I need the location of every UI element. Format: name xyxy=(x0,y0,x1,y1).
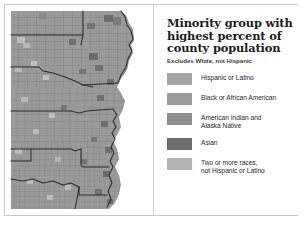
map-figure: Minority group with highest percent of c… xyxy=(4,4,298,216)
legend-list: Hispanic or Latino Black or African Amer… xyxy=(167,73,293,176)
legend-swatch-asian xyxy=(167,138,192,150)
legend-label-black-or-african-american: Black or African American xyxy=(201,93,276,102)
legend-subtitle: Excludes White, not Hispanic xyxy=(167,57,293,65)
legend-title-line-1: Minority group with xyxy=(167,17,293,30)
map-pane xyxy=(5,5,153,215)
region-kansas-missouri xyxy=(11,141,119,167)
legend-label-two-or-more-races: Two or more races, not Hispanic or Latin… xyxy=(201,158,265,176)
legend-item-hispanic-or-latino[interactable]: Hispanic or Latino xyxy=(167,73,293,86)
legend-swatch-two-or-more-races xyxy=(167,158,192,170)
map-region-lower-central xyxy=(11,141,119,167)
legend-item-black-or-african-american[interactable]: Black or African American xyxy=(167,93,293,106)
legend-label-hispanic-or-latino: Hispanic or Latino xyxy=(201,73,254,82)
legend-swatch-hispanic-or-latino xyxy=(167,73,192,85)
legend-label-asian: Asian xyxy=(201,138,218,147)
map-region-central xyxy=(11,87,125,141)
legend-item-american-indian-and-alaska-native[interactable]: American Indian and Alaska Native xyxy=(167,113,293,131)
legend-title: Minority group with highest percent of c… xyxy=(167,17,293,55)
legend-item-two-or-more-races[interactable]: Two or more races, not Hispanic or Latin… xyxy=(167,158,293,176)
choropleth-map[interactable] xyxy=(9,9,153,212)
legend-swatch-american-indian-and-alaska-native xyxy=(167,113,192,125)
legend-pane: Minority group with highest percent of c… xyxy=(154,5,301,215)
region-central-plains xyxy=(11,87,125,141)
legend-label-american-indian-and-alaska-native: American Indian and Alaska Native xyxy=(201,113,261,131)
map-svg xyxy=(9,9,153,212)
legend-title-line-3: county population xyxy=(167,42,293,55)
legend-swatch-black-or-african-american xyxy=(167,93,192,105)
legend-item-asian[interactable]: Asian xyxy=(167,138,293,151)
